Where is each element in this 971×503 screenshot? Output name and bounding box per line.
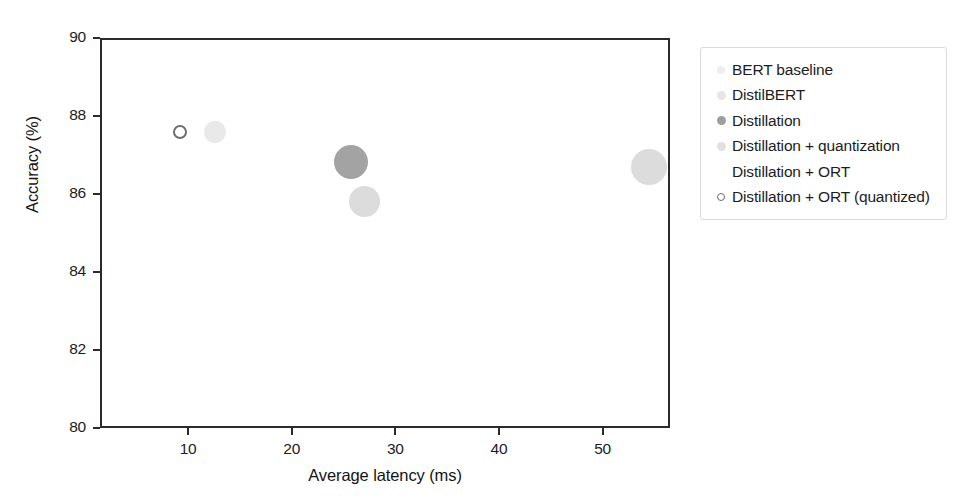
legend-marker-icon (710, 66, 732, 74)
y-axis-tick-label: 86 (42, 184, 86, 202)
y-axis-title: Accuracy (%) (23, 65, 42, 265)
x-axis-tick-mark (498, 428, 500, 435)
x-axis-tick-mark (291, 428, 293, 435)
legend-item-label: DistilBERT (732, 86, 805, 104)
data-point (334, 145, 368, 179)
x-axis-tick-label: 30 (375, 440, 415, 458)
x-axis-tick-mark (394, 428, 396, 435)
plot-area (100, 38, 670, 428)
y-axis-tick-label: 84 (42, 262, 86, 280)
legend-marker-icon (710, 116, 732, 125)
x-axis-tick-label: 50 (583, 440, 623, 458)
x-axis-title: Average latency (ms) (100, 466, 670, 485)
legend-item[interactable]: DistilBERT (710, 83, 936, 109)
data-point (631, 149, 667, 185)
legend-item[interactable]: Distillation + ORT (710, 159, 936, 185)
x-axis-tick-label: 10 (168, 440, 208, 458)
y-axis-tick-mark (93, 427, 100, 429)
legend-item-label: Distillation + ORT (quantized) (732, 188, 930, 206)
x-axis-tick-mark (602, 428, 604, 435)
y-axis-tick-mark (93, 193, 100, 195)
y-axis-tick-label: 82 (42, 340, 86, 358)
legend-item[interactable]: Distillation + ORT (quantized) (710, 185, 936, 211)
y-axis-tick-mark (93, 37, 100, 39)
data-point (173, 125, 187, 139)
data-point (204, 121, 226, 143)
x-axis-tick-mark (187, 428, 189, 435)
chart-legend: BERT baselineDistilBERTDistillationDisti… (700, 47, 947, 220)
legend-marker-icon (710, 91, 732, 100)
legend-item[interactable]: BERT baseline (710, 57, 936, 83)
y-axis-tick-label: 90 (42, 28, 86, 46)
y-axis-tick-mark (93, 349, 100, 351)
x-axis-tick-label: 20 (272, 440, 312, 458)
legend-item-label: Distillation + quantization (732, 137, 900, 155)
legend-item[interactable]: Distillation (710, 108, 936, 134)
y-axis-tick-label: 80 (42, 418, 86, 436)
legend-item-label: Distillation + ORT (732, 163, 850, 181)
scatter-chart-figure: Accuracy (%) 808284868890 1020304050 Ave… (0, 0, 971, 503)
y-axis-tick-mark (93, 271, 100, 273)
legend-item-label: BERT baseline (732, 61, 833, 79)
legend-item-label: Distillation (732, 112, 801, 130)
legend-marker-icon (710, 142, 732, 151)
legend-marker-icon (710, 193, 732, 201)
x-axis-tick-label: 40 (479, 440, 519, 458)
y-axis-tick-mark (93, 115, 100, 117)
y-axis-tick-label: 88 (42, 106, 86, 124)
data-point (349, 186, 380, 217)
legend-item[interactable]: Distillation + quantization (710, 134, 936, 160)
